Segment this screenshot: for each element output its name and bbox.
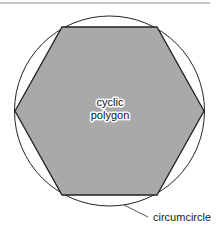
polygon-label-line1: cyclic [97, 96, 124, 108]
cyclic-polygon-diagram: cyclic polygon circumcircle [0, 0, 219, 231]
circumcircle-label: circumcircle [153, 211, 211, 223]
polygon-label-line2: polygon [91, 109, 130, 121]
circumcircle-leader-line [124, 205, 148, 217]
